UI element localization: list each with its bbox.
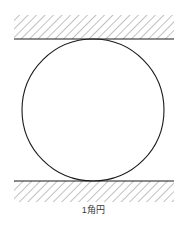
figure-container: 1角円 (0, 0, 187, 231)
lower-hatch-fill (14, 181, 174, 202)
upper-hatched-surface (14, 15, 174, 39)
upper-hatch-fill (14, 15, 174, 39)
geometry-diagram (0, 0, 187, 231)
lower-hatched-surface (14, 181, 174, 202)
figure-caption-text: 1角円 (82, 205, 106, 215)
figure-caption: 1角円 (0, 204, 187, 216)
